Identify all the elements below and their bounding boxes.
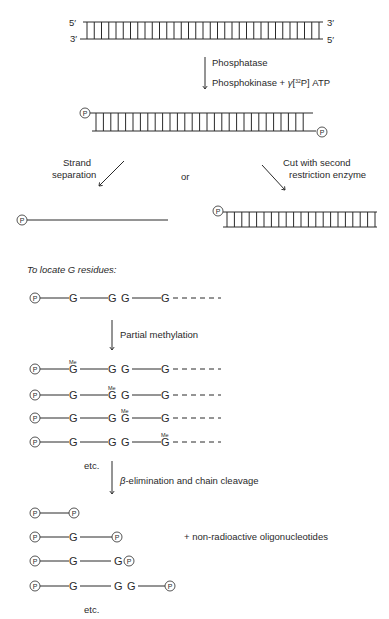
guanine-residue: G	[114, 555, 123, 567]
label-beta-elimination: β-elimination and chain cleavage	[119, 475, 259, 486]
cleavage-product: PP	[30, 508, 79, 518]
guanine-residue: G	[69, 555, 78, 567]
cleavage-product: PGGGP	[30, 580, 175, 592]
cleavage-products: PPPGPPGGPPGGGP	[30, 508, 175, 592]
methylated-row: PGMeGGG	[30, 359, 221, 375]
single-strand-labeled: P	[17, 215, 168, 225]
svg-text:P: P	[33, 439, 38, 446]
guanine-residue: G	[108, 412, 117, 424]
label-phosphokinase: Phosphokinase + γ[32P] ATP	[212, 77, 330, 88]
svg-text:P: P	[33, 534, 38, 541]
label-partial-methylation: Partial methylation	[120, 329, 198, 340]
methylated-row: PGGGGMe	[30, 432, 221, 448]
methylated-rows: PGMeGGGPGGMeGGPGGGMeGPGGGGMe	[30, 359, 221, 448]
svg-text:P: P	[33, 295, 38, 302]
phosphate-icon: P	[30, 556, 40, 566]
dna-duplex-initial: 5′ 3′ 3′ 5′	[69, 17, 334, 45]
guanine-residue: G	[127, 580, 136, 592]
guanine-residue: G	[121, 436, 130, 448]
svg-text:P: P	[320, 129, 325, 136]
base-pair-rungs	[87, 22, 319, 39]
label-restriction-enzyme: restriction enzyme	[289, 169, 366, 180]
label-or: or	[181, 171, 189, 182]
guanine-residue: G	[69, 412, 78, 424]
guanine-residue: G	[161, 389, 170, 401]
base-pair-rungs	[227, 212, 375, 227]
phosphate-icon: P	[30, 390, 40, 400]
label-5prime-bottom-right: 5′	[327, 34, 334, 45]
phosphate-icon: P	[124, 556, 134, 566]
methyl-label: Me	[161, 432, 169, 438]
phosphate-icon: P	[165, 581, 175, 591]
label-strand: Strand	[63, 157, 91, 168]
guanine-residue: G	[108, 363, 117, 375]
phosphate-icon: P	[30, 437, 40, 447]
methyl-label: Me	[108, 385, 116, 391]
svg-text:P: P	[33, 392, 38, 399]
section-title: To locate G residues:	[27, 264, 117, 275]
sequence-row: PGGGG	[30, 292, 221, 304]
svg-text:P: P	[20, 217, 25, 224]
label-non-radioactive: + non-radioactive oligonucleotides	[184, 531, 328, 542]
phosphate-icon: P	[80, 108, 90, 118]
guanine-residue: G	[69, 436, 78, 448]
svg-text:P: P	[216, 208, 221, 215]
guanine-residue: G	[161, 292, 170, 304]
svg-text:P: P	[33, 366, 38, 373]
guanine-residue: G	[108, 436, 117, 448]
cleavage-product: PGP	[30, 531, 122, 543]
dna-duplex-labeled: P P	[80, 108, 327, 137]
svg-text:P: P	[33, 583, 38, 590]
svg-text:P: P	[168, 583, 173, 590]
methylated-row: PGGGMeG	[30, 408, 221, 424]
phosphate-icon: P	[17, 215, 27, 225]
methyl-label: Me	[69, 359, 77, 365]
label-etc-1: etc.	[84, 460, 99, 471]
label-etc-2: etc.	[84, 604, 99, 615]
base-pair-rungs	[96, 113, 303, 131]
svg-text:P: P	[72, 510, 77, 517]
guanine-residue: G	[69, 389, 78, 401]
svg-text:P: P	[33, 510, 38, 517]
arrow-right-branch	[262, 165, 285, 190]
guanine-residue: G	[108, 292, 117, 304]
guanine-residue: G	[161, 363, 170, 375]
phosphate-icon: P	[30, 364, 40, 374]
guanine-residue: G	[69, 580, 78, 592]
methyl-label: Me	[121, 408, 129, 414]
label-5prime-top-left: 5′	[69, 17, 76, 28]
guanine-residue: G	[121, 389, 130, 401]
phosphate-icon: P	[69, 508, 79, 518]
guanine-residue: G	[161, 412, 170, 424]
phosphate-icon: P	[30, 581, 40, 591]
label-separation: separation	[52, 169, 96, 180]
g-residue-sequencing-diagram: 5′ 3′ 3′ 5′ Phosphatase Phosphokinase + …	[0, 0, 389, 619]
phosphate-icon: P	[30, 508, 40, 518]
cleavage-product: PGGP	[30, 555, 134, 567]
phosphate-icon: P	[30, 532, 40, 542]
methylated-row: PGGMeGG	[30, 385, 221, 401]
phosphate-icon: P	[30, 413, 40, 423]
guanine-residue: G	[114, 580, 123, 592]
phosphate-icon: P	[213, 206, 223, 216]
phosphate-icon: P	[30, 293, 40, 303]
svg-text:P: P	[33, 558, 38, 565]
guanine-residue: G	[121, 292, 130, 304]
guanine-residue: G	[69, 531, 78, 543]
label-3prime-top-right: 3′	[327, 17, 334, 28]
guanine-residue: G	[69, 292, 78, 304]
arrow-left-branch	[99, 161, 124, 186]
phosphate-icon: P	[317, 127, 327, 137]
label-3prime-bottom-left: 3′	[70, 33, 77, 44]
phosphate-icon: P	[112, 532, 122, 542]
label-phosphatase: Phosphatase	[212, 57, 267, 68]
svg-text:P: P	[127, 558, 132, 565]
svg-text:P: P	[83, 110, 88, 117]
svg-text:P: P	[33, 415, 38, 422]
label-cut-with-second: Cut with second	[283, 157, 351, 168]
guanine-residue: G	[121, 363, 130, 375]
svg-text:P: P	[115, 534, 120, 541]
dna-duplex-cut: P	[213, 206, 377, 227]
